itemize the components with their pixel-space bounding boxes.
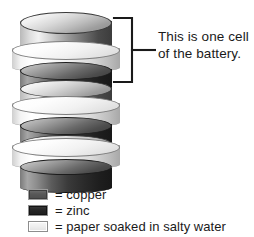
zinc-disc-3-top: [20, 159, 112, 175]
cell-annotation: This is one cell of the battery.: [158, 28, 254, 62]
voltaic-pile-figure: This is one cell of the battery. = coppe…: [0, 0, 254, 237]
legend-label-copper: = copper: [55, 187, 106, 202]
legend-item-zinc: = zinc: [28, 203, 254, 218]
copper-disc-1-top: [20, 12, 112, 34]
legend: = copper = zinc = paper soaked in salty …: [28, 187, 254, 235]
paper-disc-1-top: [12, 41, 120, 60]
legend-swatch-copper-icon: [28, 189, 48, 200]
cell-bracket: [112, 16, 156, 84]
legend-swatch-paper-icon: [28, 221, 48, 232]
cell-annotation-line1: This is one cell: [158, 28, 254, 45]
cell-bracket-icon: [112, 16, 156, 84]
legend-item-paper: = paper soaked in salty water: [28, 219, 254, 234]
cell-annotation-line2: of the battery.: [158, 45, 254, 62]
legend-item-copper: = copper: [28, 187, 254, 202]
paper-disc-3-top: [12, 138, 120, 157]
battery-stack: [12, 12, 122, 182]
zinc-disc-2-top: [20, 117, 112, 135]
legend-swatch-zinc-icon: [28, 205, 48, 216]
legend-label-paper: = paper soaked in salty water: [55, 219, 226, 234]
paper-disc-2-top: [12, 96, 120, 115]
zinc-disc-1-top: [20, 62, 112, 80]
legend-label-zinc: = zinc: [55, 203, 90, 218]
